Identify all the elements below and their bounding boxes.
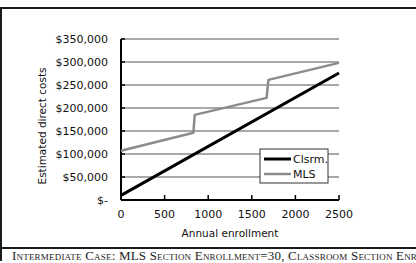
y-tick-label: $50,000 — [63, 171, 109, 184]
cost-vs-enrollment-chart: $-$50,000$100,000$150,000$200,000$250,00… — [0, 0, 416, 247]
x-axis-title: Annual enrollment — [182, 227, 279, 239]
x-axis-ticks: 05001000150020002500 — [118, 195, 354, 221]
series-line-mls — [121, 63, 339, 151]
y-tick-label: $250,000 — [56, 79, 109, 92]
legend-label-mls: MLS — [293, 168, 316, 181]
y-axis-title: Estimated direct costs — [36, 68, 48, 185]
y-tick-label: $300,000 — [56, 56, 109, 69]
y-tick-label: $350,000 — [56, 33, 109, 46]
x-tick-label: 1000 — [194, 208, 222, 221]
legend-label-clsrm: Clsrm. — [293, 153, 328, 166]
figure-caption: Intermediate Case: MLS Section Enrollmen… — [12, 249, 416, 263]
y-tick-label: $- — [97, 194, 108, 207]
x-tick-label: 500 — [154, 208, 175, 221]
x-tick-label: 1500 — [238, 208, 266, 221]
x-tick-label: 2500 — [325, 208, 353, 221]
y-tick-label: $200,000 — [56, 102, 109, 115]
y-tick-label: $150,000 — [56, 125, 109, 138]
legend: Clsrm. MLS — [260, 149, 328, 183]
y-axis-tick-labels: $-$50,000$100,000$150,000$200,000$250,00… — [56, 33, 109, 207]
x-tick-label: 2000 — [281, 208, 309, 221]
x-tick-label: 0 — [118, 208, 125, 221]
y-tick-label: $100,000 — [56, 148, 109, 161]
